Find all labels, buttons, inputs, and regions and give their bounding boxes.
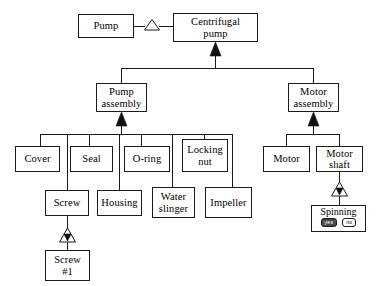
node-housing[interactable]: Housing	[97, 190, 142, 216]
node-oring-label: O-ring	[133, 153, 162, 164]
aggregation-arrow-icon-centrifugal	[210, 42, 221, 56]
node-motor-assembly-label-line2: assembly	[294, 98, 334, 109]
node-motor-assembly[interactable]: Motor assembly	[288, 83, 339, 112]
node-centrifugal-pump[interactable]: Centrifugal pump	[173, 13, 258, 42]
node-spinning[interactable]: Spinning yes no	[311, 205, 366, 232]
node-water-slinger-label-line2: slinger	[159, 203, 188, 214]
node-locking-nut-label-line2: nut	[187, 156, 223, 167]
node-housing-label: Housing	[101, 197, 137, 208]
aggregation-arrow-icon-pump-assembly	[116, 112, 127, 126]
node-cover-label: Cover	[24, 153, 50, 164]
node-motor-assembly-label-line1: Motor	[294, 86, 334, 97]
node-cover[interactable]: Cover	[15, 146, 60, 172]
node-impeller[interactable]: Impeller	[205, 187, 252, 218]
spinning-state-buttons: yes no	[321, 218, 357, 228]
spinning-no-button[interactable]: no	[342, 218, 356, 228]
node-water-slinger-label-line1: Water	[159, 191, 188, 202]
node-motor-label: Motor	[273, 153, 300, 164]
node-motor-shaft-label-line2: shaft	[326, 159, 353, 170]
node-water-slinger[interactable]: Water slinger	[152, 187, 195, 218]
node-screw-label: Screw	[54, 197, 81, 208]
node-motor-shaft[interactable]: Motor shaft	[316, 146, 363, 172]
aggregation-arrow-icon-motor-assembly	[308, 112, 319, 126]
node-screw[interactable]: Screw	[45, 190, 89, 216]
node-motor[interactable]: Motor	[263, 146, 310, 172]
node-locking-nut[interactable]: Locking nut	[182, 139, 228, 172]
node-motor-shaft-label-line1: Motor	[326, 148, 353, 159]
node-seal-label: Seal	[82, 153, 100, 164]
node-oring[interactable]: O-ring	[124, 146, 170, 172]
product-structure-diagram: Pump Centrifugal pump Pump assembly Moto…	[0, 0, 376, 286]
node-pump-assembly[interactable]: Pump assembly	[96, 83, 147, 112]
node-seal[interactable]: Seal	[70, 146, 113, 172]
node-centrifugal-pump-label-line2: pump	[191, 28, 240, 39]
node-pump-label: Pump	[94, 20, 119, 31]
node-screw-1[interactable]: Screw #1	[45, 250, 90, 281]
node-locking-nut-label-line1: Locking	[187, 144, 223, 155]
spinning-yes-button[interactable]: yes	[321, 218, 338, 228]
node-pump[interactable]: Pump	[78, 14, 134, 38]
node-screw-1-label-line1: Screw	[54, 254, 81, 265]
node-spinning-label: Spinning	[320, 207, 356, 218]
node-centrifugal-pump-label-line1: Centrifugal	[191, 16, 240, 27]
node-pump-assembly-label-line1: Pump	[102, 86, 142, 97]
node-pump-assembly-label-line2: assembly	[102, 98, 142, 109]
node-screw-1-label-line2: #1	[54, 266, 81, 277]
generalization-triangle-icon	[145, 20, 160, 31]
node-impeller-label: Impeller	[210, 197, 246, 208]
